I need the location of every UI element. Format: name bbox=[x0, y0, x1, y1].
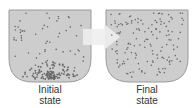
final-label-line1: Final bbox=[117, 84, 177, 95]
initial-state-label: Initial state bbox=[20, 84, 80, 106]
final-state-label: Final state bbox=[117, 84, 177, 106]
final-container bbox=[106, 10, 188, 82]
initial-label-line2: state bbox=[20, 95, 80, 106]
final-label-line2: state bbox=[117, 95, 177, 106]
initial-label-line1: Initial bbox=[20, 84, 80, 95]
